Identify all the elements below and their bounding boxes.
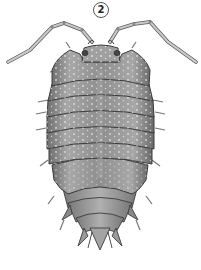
head [82, 40, 120, 62]
figure-number-label: 2 [93, 2, 109, 18]
isopod-drawing [0, 0, 201, 270]
eye-right [114, 51, 120, 56]
isopod-illustration: 2 [0, 0, 201, 270]
eye-left [82, 51, 88, 56]
